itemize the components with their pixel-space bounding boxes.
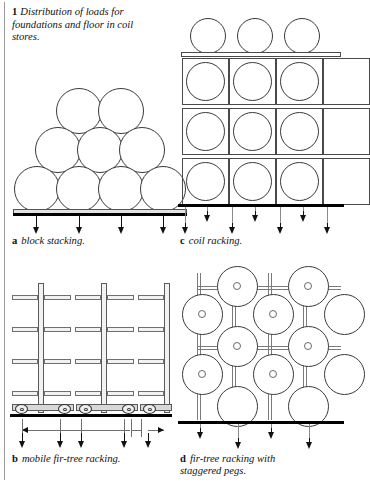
panel-c-letter: c	[180, 235, 185, 246]
load-leader	[327, 207, 328, 223]
coil-circle-icon	[186, 62, 225, 101]
travel-dimension-line	[22, 430, 130, 431]
load-leader	[280, 207, 281, 223]
coil-circle-icon	[190, 18, 226, 54]
coil-circle-icon	[280, 62, 319, 101]
wheel-icon	[58, 404, 71, 414]
panel-c-label: ccoil racking.	[180, 235, 335, 247]
panel-a-label: ablock stacking.	[12, 235, 162, 247]
rack-arm	[138, 295, 164, 300]
wheel-icon	[15, 404, 28, 414]
rack-arm	[12, 295, 38, 300]
rack-arm	[12, 359, 38, 364]
panel-d-label: dfir-tree racking withstaggered pegs.	[180, 453, 330, 478]
panel-a-letter: a	[12, 235, 17, 246]
panel-c-ground-line	[178, 204, 344, 207]
load-leader	[185, 207, 186, 223]
rack-arm	[12, 327, 38, 332]
coil-circle-icon	[98, 166, 144, 212]
aisle-gap-line	[131, 430, 141, 431]
panel-b-label-text: mobile fir-tree racking.	[22, 453, 121, 464]
rack-cell	[323, 108, 370, 155]
rack-arm	[75, 295, 101, 300]
aisle-gap-tick	[141, 419, 142, 437]
panel-b-ground-line	[10, 414, 172, 417]
rack-arm	[44, 359, 71, 364]
rack-arm	[44, 391, 71, 396]
coil-hole-icon	[304, 282, 312, 290]
page-left-rule	[4, 2, 5, 480]
coil-hole-icon	[198, 370, 206, 378]
coil-circle-icon	[284, 18, 320, 54]
rack-arm	[75, 391, 101, 396]
rack-arm	[138, 327, 164, 332]
rack-arm	[75, 359, 101, 364]
figure-caption: 1Distribution of loads for foundations a…	[12, 6, 162, 44]
rack-cell	[323, 58, 370, 105]
coil-circle-icon	[280, 112, 319, 151]
rack-arm	[44, 295, 71, 300]
rack-arm	[75, 327, 101, 332]
load-leader	[238, 424, 239, 438]
panel-a-ground-line	[13, 213, 187, 216]
rack-arm	[107, 327, 134, 332]
rack-top-beam	[181, 52, 341, 57]
panel-d-label-line-2: staggered pegs.	[180, 465, 246, 476]
coil-circle-icon	[233, 62, 272, 101]
coil-hole-icon	[304, 342, 312, 350]
rack-mast	[164, 283, 170, 413]
panel-c-label-text: coil racking.	[189, 235, 243, 246]
load-leader	[309, 424, 310, 438]
coil-hole-icon	[269, 370, 277, 378]
coil-hole-icon	[233, 342, 241, 350]
rack-arm	[107, 391, 134, 396]
coil-circle-icon	[280, 162, 319, 201]
rack-arm	[107, 295, 134, 300]
coil-circle-icon	[14, 166, 60, 212]
rack-cell	[323, 158, 370, 205]
coil-circle-icon	[233, 162, 272, 201]
rack-arm	[138, 391, 164, 396]
coil-circle-icon	[186, 112, 225, 151]
coil-circle-icon	[324, 354, 365, 395]
coil-hole-icon	[233, 282, 241, 290]
wheel-icon	[143, 404, 156, 414]
rack-arm	[12, 391, 38, 396]
dimension-arrow-icon	[158, 427, 164, 433]
coil-hole-icon	[198, 310, 206, 318]
rack-arm	[44, 327, 71, 332]
rack-arm	[138, 359, 164, 364]
load-leader	[232, 207, 233, 223]
figure-caption-text: Distribution of loads for foundations an…	[12, 6, 133, 42]
coil-circle-icon	[324, 294, 365, 335]
wheel-icon	[122, 404, 135, 414]
panel-d-ground-line	[178, 421, 344, 424]
figure-number: 1	[12, 6, 17, 17]
coil-circle-icon	[233, 112, 272, 151]
coil-circle-icon	[186, 162, 225, 201]
coil-circle-icon	[56, 166, 102, 212]
panel-d-label-line-1: fir-tree racking with	[190, 453, 275, 464]
wheel-icon	[79, 404, 92, 414]
rack-arm	[107, 359, 134, 364]
panel-b-label: bmobile fir-tree racking.	[12, 453, 167, 465]
panel-b-letter: b	[12, 453, 18, 464]
panel-a-label-text: block stacking.	[21, 235, 85, 246]
coil-hole-icon	[269, 310, 277, 318]
coil-circle-icon	[237, 18, 273, 54]
panel-d-letter: d	[180, 453, 186, 464]
aisle-gap-tick	[131, 419, 132, 437]
